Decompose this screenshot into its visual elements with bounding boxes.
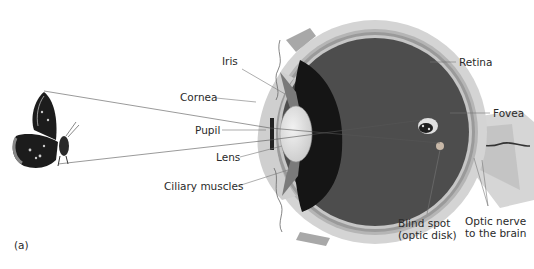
panel-label: (a) — [14, 239, 29, 251]
label-iris: Iris — [222, 55, 238, 67]
optic-disk — [436, 142, 444, 150]
label-fovea: Fovea — [493, 107, 524, 119]
label-cornea: Cornea — [180, 91, 217, 103]
label-optic-nerve: Optic nerve to the brain — [465, 215, 526, 239]
label-ciliary-muscles: Ciliary muscles — [164, 180, 243, 192]
butterfly-illustration — [13, 92, 79, 168]
lens — [280, 106, 312, 162]
label-blind-spot: Blind spot (optic disk) — [398, 217, 457, 241]
eye-muscle-bottom — [296, 232, 330, 246]
label-retina: Retina — [459, 56, 492, 68]
label-lens: Lens — [216, 151, 240, 163]
label-pupil: Pupil — [195, 124, 220, 136]
pupil-opening — [270, 118, 274, 150]
